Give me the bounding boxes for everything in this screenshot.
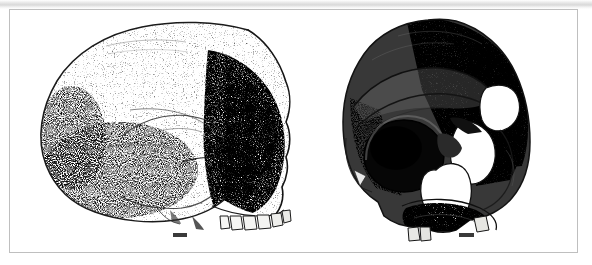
scale-bar-frontal [459, 233, 474, 237]
figure-page: Lateral view of hominin cranium [0, 0, 592, 265]
skull-lateral-body [10, 10, 310, 252]
scan-edge-band [0, 0, 592, 9]
panel-frontal-view: Three-quarter frontal view of hominin cr… [310, 10, 577, 252]
skull-lateral-illustration [10, 10, 310, 252]
skull-frontal-illustration [310, 10, 577, 252]
scale-bar-lateral [173, 233, 187, 237]
panel-lateral-view: Lateral view of hominin cranium [10, 10, 310, 252]
skull-frontal-body [310, 10, 577, 252]
plate-inner: Lateral view of hominin cranium [10, 10, 577, 252]
plate-frame: Lateral view of hominin cranium [9, 9, 578, 253]
